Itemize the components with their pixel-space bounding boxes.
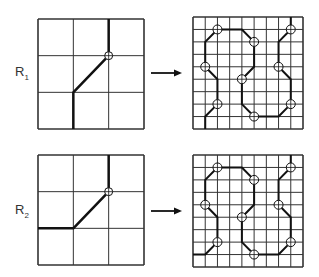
grid-diagram-canvas: [0, 0, 319, 277]
arrow-right-icon: [174, 208, 182, 215]
small-grid-r1-path: [73, 19, 108, 129]
arrow-right-icon: [174, 70, 182, 77]
